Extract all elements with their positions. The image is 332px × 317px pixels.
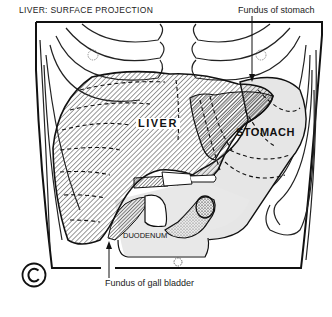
bile-duct (162, 172, 192, 186)
duodenum-label: DUODENUM (121, 232, 169, 240)
pancreas-ring (196, 196, 214, 218)
copyright-icon (21, 262, 47, 288)
liver-label: LIVER (136, 118, 180, 129)
label-fundus-of-gall-bladder: Fundus of gall bladder (105, 278, 194, 288)
nipple-left (88, 50, 98, 60)
portal-extension (190, 175, 216, 182)
stomach-label: STOMACH (234, 127, 297, 138)
anatomy-illustration (0, 0, 332, 317)
umbilicus (174, 258, 182, 266)
